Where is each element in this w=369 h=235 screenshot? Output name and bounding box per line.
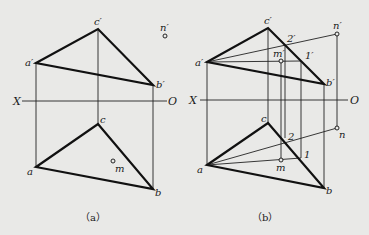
label-c-prime-a: c′	[94, 16, 103, 27]
label-b-prime-b: b′	[326, 77, 335, 88]
label-a-b: a	[197, 164, 203, 175]
label-1-b: 1	[304, 149, 310, 160]
label-2-b: 2	[287, 131, 294, 142]
label-c-b: c	[261, 113, 267, 124]
label-1-prime-b: 1′	[305, 50, 314, 61]
label-n-prime-a: n′	[160, 22, 169, 33]
aux-line-a-prime-1-prime	[207, 61, 301, 62]
aux-line-a-1	[207, 158, 301, 165]
axis-label-x-a: X	[12, 95, 22, 108]
top-triangle-a	[36, 124, 153, 189]
caption-b: （b）	[252, 212, 278, 223]
label-m-b: m	[276, 162, 285, 173]
aux-line-a-n	[207, 128, 337, 165]
label-2-prime-b: 2′	[286, 33, 296, 44]
label-n-prime-b: n′	[333, 20, 342, 31]
point-m-prime-b	[279, 59, 283, 63]
label-m-a: m	[115, 163, 124, 174]
label-b-prime-a: b′	[156, 79, 165, 90]
label-a-prime-a: a′	[25, 57, 34, 68]
figure-b: X O a′ c′ b′ n′ m′ 2′ 1′ c a b n m 2 1 （…	[188, 15, 359, 223]
point-n-prime-b	[335, 32, 339, 36]
projection-diagram: X O a′ c′ b′ n′ c a b m （a）	[0, 0, 369, 235]
label-a-prime-b: a′	[195, 57, 204, 68]
figure-a: X O a′ c′ b′ n′ c a b m （a）	[12, 16, 177, 223]
label-m-prime-b: m′	[273, 48, 285, 59]
label-b-a: b	[155, 187, 161, 198]
front-triangle-a	[36, 29, 153, 85]
axis-label-o-a: O	[168, 95, 177, 108]
label-c-prime-b: c′	[264, 15, 273, 26]
axis-label-x-b: X	[188, 94, 198, 107]
caption-a: （a）	[80, 212, 106, 223]
aux-line-a-prime-n-prime	[207, 34, 337, 62]
label-c-a: c	[100, 114, 106, 125]
label-a-a: a	[27, 166, 33, 177]
point-n-prime-a	[163, 34, 167, 38]
axis-label-o-b: O	[350, 94, 359, 107]
label-n-b: n	[339, 129, 345, 140]
diagram-canvas: X O a′ c′ b′ n′ c a b m （a）	[0, 0, 369, 235]
label-b-b: b	[326, 185, 332, 196]
